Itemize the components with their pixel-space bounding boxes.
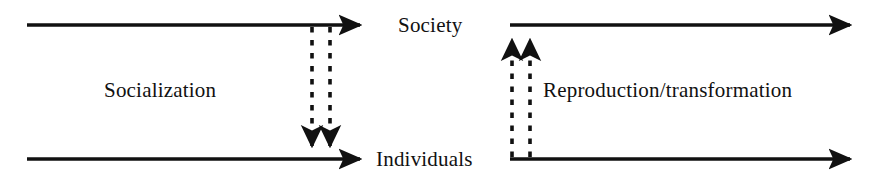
- flow-label-socialization: Socialization: [104, 80, 216, 101]
- flow-label-reproduction-transformation: Reproduction/transformation: [543, 80, 792, 101]
- axis-label-individuals: Individuals: [376, 149, 473, 170]
- axis-label-society: Society: [398, 15, 462, 36]
- diagram-canvas: Society Individuals Socialization Reprod…: [0, 0, 870, 186]
